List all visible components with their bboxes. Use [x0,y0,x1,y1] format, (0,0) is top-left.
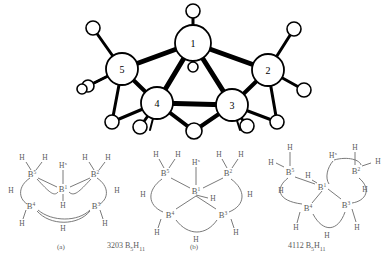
hydrogen-label: H [233,228,239,237]
formula-right-styx: 4112 [288,241,304,250]
hydrogen-label: H [82,153,88,162]
boron-atom-label-2: 2 [266,65,271,76]
hydrogen-label: H [238,150,244,159]
atom-label-b5-b: B5 [161,168,170,178]
atom-label-b2-a: B2 [91,169,100,179]
hydrogen-label-bridge-x: Hx [329,151,337,160]
formula-right-hydrogen-count: 11 [320,246,326,252]
atom-label-b5-c: B5 [286,167,295,177]
hydrogen-label: H [210,194,216,203]
boron-atom-label-4: 4 [155,98,160,109]
hydrogen-label: H [305,171,311,180]
hydrogen-label: H [19,219,25,228]
hydrogen-label: H [42,153,48,162]
formula-left-hydrogen-count: 11 [139,246,145,252]
boron-atom-label-3: 3 [230,100,235,111]
hydrogen-label-bridge-x: Hx [192,158,200,167]
hydrogen-label: H [175,150,181,159]
hydrogen-label: H [140,190,146,199]
valence-diagram-c-labels: B5 B2 B1 B4 B3 H H H H Hx H H H H H H [268,143,381,240]
boron-atom-label-1: 1 [191,38,196,49]
cage-boron-atoms: 1 2 3 4 5 [106,25,284,121]
boron-atom-1: 1 [175,25,211,61]
hydrogen-label: H [287,143,293,152]
boron-atom-4: 4 [141,87,173,119]
atom-label-b4-b: B4 [166,210,175,220]
boron-atom-5: 5 [106,53,138,85]
hydrogen-label: H [375,157,381,166]
boron-atom-label-5: 5 [120,64,125,75]
hydrogen-label: H [216,150,222,159]
atom-label-b5-a: B5 [28,169,37,179]
hydrogen-label: H [268,158,274,167]
formula-left-styx: 3203 [107,241,123,250]
hydrogen-label: H [8,186,14,195]
valence-diagram-c [276,152,371,228]
hydrogen-label: H [293,223,299,232]
atom-label-b1-c: B1 [318,182,327,192]
caption-formula-left: 3203 B5H11 [107,241,145,252]
hydrogen-label: H [102,219,108,228]
atom-label-b1-b: B1 [192,186,201,196]
atom-label-b3-c: B3 [342,200,351,210]
atom-label-b3-a: B3 [92,201,101,211]
borane-structures-figure: 1 2 3 4 5 [0,0,387,261]
hydrogen-label: H [154,228,160,237]
atom-label-b4-a: B4 [27,201,36,211]
atom-label-b1-a: B1 [59,184,68,194]
boron-atom-2: 2 [252,54,284,86]
hydrogen-label: H [247,190,253,199]
hydrogen-label: H [153,150,159,159]
hydrogen-label-bridge-x: Hx [59,161,67,170]
atom-label-b3-b: B3 [219,210,228,220]
atom-label-b2-c: B2 [352,166,361,176]
hydrogen-label: H [354,223,360,232]
hydrogen-label: H [105,153,111,162]
caption-label-a: (a) [57,243,65,251]
hydrogen-label: H [60,224,66,233]
hydrogen-label: H [114,186,120,195]
top-cage-structure: 1 2 3 4 5 [77,4,311,139]
hydrogen-label: H [324,231,330,240]
hydrogen-label: H [19,153,25,162]
caption-label-b: (b) [190,243,198,251]
hydrogen-label: H [60,201,66,210]
atom-label-b4-c: B4 [304,203,313,213]
boron-atom-3: 3 [216,89,248,121]
hydrogen-label: H [362,185,368,194]
caption-formula-right: 4112 B5H11 [288,241,326,252]
hydrogen-label: H [352,143,358,152]
hydrogen-label: H [278,186,284,195]
valence-diagram-a-labels: B5 B2 B1 B4 B3 H H H H Hx H H H H H H [8,153,120,233]
atom-label-b2-b: B2 [224,168,233,178]
